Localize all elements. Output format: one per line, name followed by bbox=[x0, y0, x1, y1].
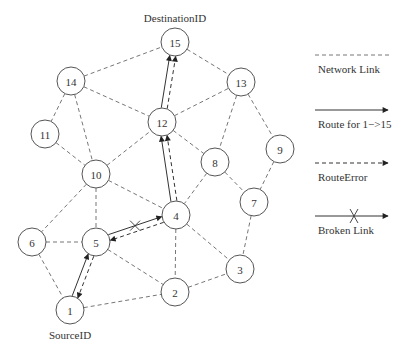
network-link-12-13 bbox=[174, 88, 228, 115]
node-7: 7 bbox=[240, 188, 268, 216]
network-link-4-3 bbox=[187, 224, 230, 260]
route-error-link-4-12 bbox=[167, 135, 177, 200]
network-diagram: 123456789101112131415 DestinationID Sour… bbox=[0, 0, 405, 355]
network-link-10-6 bbox=[42, 184, 87, 232]
node-label: 7 bbox=[251, 197, 257, 209]
legend-label-route: Route for 1−>15 bbox=[318, 118, 392, 130]
node-label: 9 bbox=[277, 144, 283, 156]
source-label: SourceID bbox=[49, 329, 91, 341]
network-link-10-4 bbox=[108, 180, 163, 208]
node-11: 11 bbox=[31, 120, 59, 148]
node-label: 5 bbox=[93, 237, 99, 249]
node-label: 14 bbox=[66, 76, 78, 88]
network-link-5-2 bbox=[108, 249, 163, 284]
network-link-13-9 bbox=[248, 94, 273, 137]
node-8: 8 bbox=[201, 148, 229, 176]
legend-label-route-error: RouteError bbox=[318, 171, 368, 183]
node-12: 12 bbox=[148, 108, 176, 136]
network-link-14-11 bbox=[51, 94, 65, 122]
legend-label-network-link: Network Link bbox=[318, 63, 381, 75]
network-link-13-8 bbox=[219, 95, 236, 148]
network-link-9-7 bbox=[260, 162, 274, 190]
node-15: 15 bbox=[161, 28, 189, 56]
node-label: 12 bbox=[157, 117, 168, 129]
legend-item-route-error: RouteError bbox=[315, 163, 388, 183]
network-link-8-4 bbox=[184, 173, 206, 203]
node-13: 13 bbox=[227, 68, 255, 96]
node-label: 1 bbox=[67, 305, 73, 317]
network-link-14-15 bbox=[84, 47, 162, 76]
network-link-14-12 bbox=[84, 87, 149, 116]
destination-label: DestinationID bbox=[144, 12, 206, 24]
node-10: 10 bbox=[82, 160, 110, 188]
node-3: 3 bbox=[226, 255, 254, 283]
node-14: 14 bbox=[57, 67, 85, 95]
network-link-4-2 bbox=[175, 229, 176, 278]
network-link-14-10 bbox=[75, 95, 93, 161]
network-link-7-3 bbox=[243, 216, 251, 256]
node-4: 4 bbox=[162, 201, 190, 229]
node-label: 10 bbox=[91, 169, 103, 181]
node-1: 1 bbox=[56, 296, 84, 324]
node-label: 13 bbox=[236, 77, 248, 89]
node-9: 9 bbox=[266, 135, 294, 163]
network-link-10-12 bbox=[107, 131, 151, 166]
node-5: 5 bbox=[82, 228, 110, 256]
node-label: 2 bbox=[172, 287, 178, 299]
route-link-1-5 bbox=[72, 254, 88, 296]
broken-x-icon bbox=[130, 221, 140, 231]
network-link-6-1 bbox=[39, 254, 63, 298]
network-link-11-10 bbox=[56, 143, 85, 166]
node-label: 3 bbox=[237, 264, 243, 276]
network-link-1-2 bbox=[84, 294, 161, 307]
node-label: 6 bbox=[29, 237, 35, 249]
route-link-4-12 bbox=[161, 136, 171, 201]
node-label: 15 bbox=[170, 37, 182, 49]
network-link-15-13 bbox=[187, 49, 229, 74]
legend-item-broken-link: Broken Link bbox=[315, 209, 388, 236]
node-label: 11 bbox=[40, 129, 51, 141]
node-2: 2 bbox=[161, 278, 189, 306]
legend-item-network-link: Network Link bbox=[315, 55, 390, 75]
node-label: 8 bbox=[212, 157, 218, 169]
route-error-link-5-1 bbox=[78, 256, 94, 298]
network-link-8-7 bbox=[225, 172, 244, 192]
legend-item-route: Route for 1−>15 bbox=[315, 110, 392, 130]
node-6: 6 bbox=[18, 228, 46, 256]
node-label: 4 bbox=[173, 210, 179, 222]
legend-label-broken-link: Broken Link bbox=[318, 224, 374, 236]
legend: Network Link Route for 1−>15 RouteError … bbox=[315, 55, 392, 236]
network-link-2-3 bbox=[188, 274, 227, 288]
network-link-12-8 bbox=[173, 130, 204, 153]
